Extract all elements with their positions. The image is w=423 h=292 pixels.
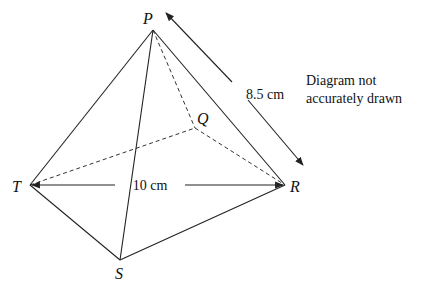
edge-pr	[153, 30, 285, 185]
pr-dimension-label: 8.5 cm	[246, 87, 284, 102]
pr-dimension-arrow-bottom	[248, 100, 303, 165]
edge-ts	[30, 185, 120, 260]
edge-tq	[30, 128, 195, 185]
edge-qr	[195, 128, 285, 185]
vertex-label-p: P	[142, 10, 153, 27]
note-line-2: accurately drawn	[306, 91, 402, 106]
vertex-label-q: Q	[197, 110, 209, 127]
vertex-label-t: T	[12, 178, 22, 195]
vertex-label-r: R	[289, 178, 300, 195]
pyramid-diagram: 10 cm 8.5 cm P Q R S T Diagram not accur…	[0, 0, 423, 292]
tr-dimension-label: 10 cm	[133, 178, 168, 193]
note-line-1: Diagram not	[306, 73, 376, 88]
edge-sr	[120, 185, 285, 260]
vertex-label-s: S	[115, 265, 123, 282]
edge-pq	[153, 30, 195, 128]
pr-dimension-arrow-top	[166, 13, 232, 82]
